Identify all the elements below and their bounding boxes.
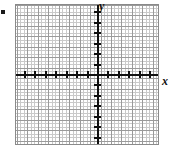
- y-axis-tick: [94, 22, 101, 24]
- y-axis-line: [97, 5, 99, 144]
- x-axis-tick: [128, 71, 130, 78]
- coordinate-plane-figure: y x: [0, 0, 176, 154]
- x-axis-tick: [45, 71, 47, 78]
- x-axis-tick: [66, 71, 68, 78]
- x-axis-tick: [24, 71, 26, 78]
- x-axis-tick: [34, 71, 36, 78]
- y-axis-tick: [94, 43, 101, 45]
- y-axis-tick: [94, 32, 101, 34]
- y-axis-tick: [94, 95, 101, 97]
- y-axis-tick: [94, 64, 101, 66]
- x-axis-tick: [139, 71, 141, 78]
- y-axis-tick: [94, 53, 101, 55]
- x-axis-label: x: [162, 75, 168, 87]
- y-axis-tick: [94, 116, 101, 118]
- x-axis-tick: [55, 71, 57, 78]
- x-axis-tick: [118, 71, 120, 78]
- y-axis-tick: [94, 137, 101, 139]
- x-axis-tick: [149, 71, 151, 78]
- x-axis-tick: [107, 71, 109, 78]
- plot-area: [15, 4, 159, 145]
- y-axis-tick: [94, 126, 101, 128]
- x-axis-tick: [76, 71, 78, 78]
- bullet-marker-icon: [1, 10, 5, 14]
- y-axis-label: y: [99, 0, 104, 12]
- y-axis-tick: [94, 84, 101, 86]
- y-axis-tick: [94, 105, 101, 107]
- x-axis-tick: [87, 71, 89, 78]
